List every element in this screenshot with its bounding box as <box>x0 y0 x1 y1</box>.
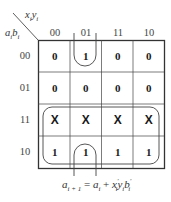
cell-00-01: 1 <box>70 40 102 72</box>
cell-10-00: 1 <box>39 136 71 168</box>
row-header-00: 00 <box>12 50 38 61</box>
cell-10-01: 1 <box>70 136 102 168</box>
row-header-11: 11 <box>12 114 38 125</box>
simplified-equation: ai + 1 = ai + x′iyib′i <box>62 177 130 193</box>
cell-11-10: X <box>133 104 165 136</box>
row-header-01: 01 <box>12 82 38 93</box>
cell-01-00: 0 <box>39 72 71 104</box>
cell-00-10: 0 <box>133 40 165 72</box>
row-variables-label: aibi <box>5 27 19 41</box>
cell-01-01: 0 <box>70 72 102 104</box>
cell-00-00: 0 <box>39 40 71 72</box>
col-header-10: 10 <box>133 27 165 38</box>
cell-11-01: X <box>70 104 102 136</box>
col-header-11: 11 <box>102 27 134 38</box>
cell-10-11: 1 <box>102 136 134 168</box>
row-header-10: 10 <box>12 146 38 157</box>
cell-10-10: 1 <box>133 136 165 168</box>
cell-01-11: 0 <box>102 72 134 104</box>
cell-11-00: X <box>39 104 71 136</box>
column-variables-label: xiyi <box>25 9 38 23</box>
cell-01-10: 0 <box>133 72 165 104</box>
cell-00-11: 0 <box>102 40 134 72</box>
col-header-00: 00 <box>39 27 71 38</box>
cell-11-11: X <box>102 104 134 136</box>
col-header-01: 01 <box>70 27 102 38</box>
